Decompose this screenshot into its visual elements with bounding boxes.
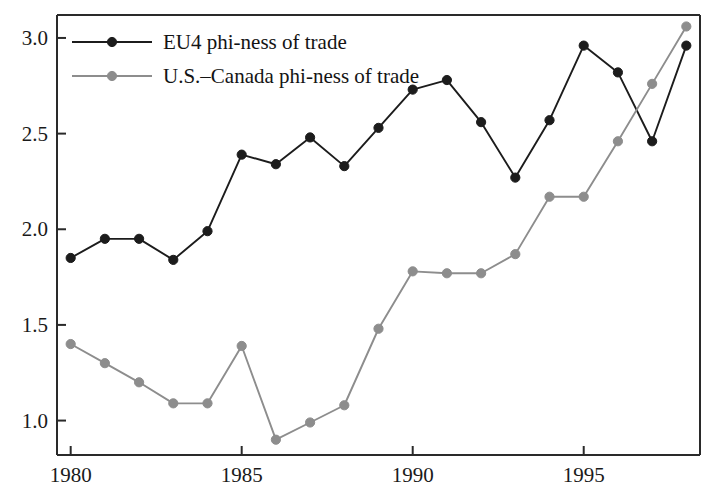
data-point-marker	[408, 267, 417, 276]
data-point-marker	[579, 41, 588, 50]
x-tick-label: 1980	[50, 463, 92, 488]
data-point-marker	[271, 435, 280, 444]
data-point-marker	[374, 123, 383, 132]
legend-label-1: EU4 phi-ness of trade	[163, 30, 347, 55]
legend-marker-1	[107, 37, 116, 46]
data-point-marker	[169, 399, 178, 408]
data-point-marker	[648, 137, 657, 146]
legend-label-2: U.S.–Canada phi-ness of trade	[163, 64, 419, 89]
y-axis-ticks	[57, 38, 66, 421]
x-axis-ticks	[71, 446, 584, 455]
y-tick-label: 1.0	[0, 408, 48, 433]
data-point-marker	[545, 192, 554, 201]
data-point-marker	[66, 253, 75, 262]
data-point-marker	[203, 227, 212, 236]
data-point-marker	[306, 133, 315, 142]
data-point-marker	[169, 255, 178, 264]
y-tick-label: 1.5	[0, 312, 48, 337]
data-point-marker	[134, 378, 143, 387]
data-point-marker	[134, 234, 143, 243]
data-point-marker	[340, 162, 349, 171]
data-point-marker	[203, 399, 212, 408]
x-tick-label: 1985	[221, 463, 263, 488]
x-tick-label: 1990	[392, 463, 434, 488]
data-point-marker	[477, 269, 486, 278]
data-point-marker	[477, 118, 486, 127]
data-point-marker	[100, 234, 109, 243]
data-point-marker	[579, 192, 588, 201]
data-point-marker	[682, 22, 691, 31]
data-point-marker	[511, 173, 520, 182]
data-point-marker	[66, 339, 75, 348]
y-tick-label: 3.0	[0, 25, 48, 50]
chart-figure: 1.01.52.02.53.0 1980198519901995 EU4 phi…	[0, 0, 726, 500]
legend-marker-2	[107, 71, 116, 80]
data-point-marker	[648, 79, 657, 88]
data-point-marker	[340, 401, 349, 410]
data-point-marker	[100, 359, 109, 368]
data-point-marker	[271, 160, 280, 169]
data-point-marker	[682, 41, 691, 50]
x-tick-label: 1995	[563, 463, 605, 488]
data-point-marker	[545, 116, 554, 125]
data-point-marker	[613, 68, 622, 77]
data-point-marker	[306, 418, 315, 427]
data-point-marker	[511, 250, 520, 259]
data-point-marker	[237, 341, 246, 350]
legend-swatches	[72, 37, 152, 80]
data-point-marker	[613, 137, 622, 146]
data-point-marker	[374, 324, 383, 333]
data-point-marker	[442, 75, 451, 84]
data-point-marker	[237, 150, 246, 159]
y-tick-label: 2.0	[0, 217, 48, 242]
y-tick-label: 2.5	[0, 121, 48, 146]
data-point-marker	[442, 269, 451, 278]
